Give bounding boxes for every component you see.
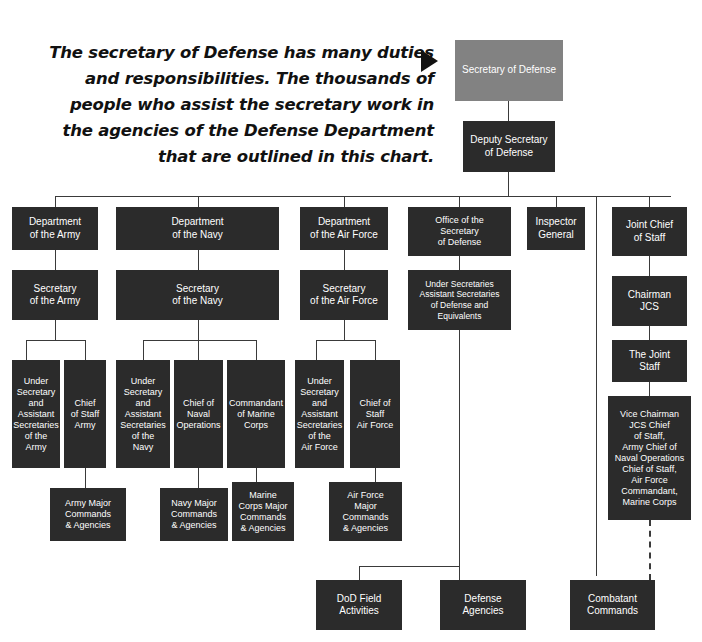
- box-secretary-of-the-navy[interactable]: Secretary of the Navy: [116, 270, 279, 320]
- connector-af-chief-drop: [375, 340, 376, 360]
- connector-af-split-bar: [316, 340, 375, 341]
- connector-sec-navy-down: [198, 320, 199, 340]
- connector-osd-bottom-bar: [359, 566, 460, 567]
- box-deputy-secretary-of-defense[interactable]: Deputy Secretary of Defense: [463, 121, 555, 172]
- box-chief-of-staff-army[interactable]: Chief of Staff Army: [64, 360, 106, 468]
- connector-navy-cmc-drop: [256, 340, 257, 360]
- connector-bus-to-navy: [198, 196, 199, 207]
- box-office-of-the-secretary-of-defense[interactable]: Office of the Secretary of Defense: [408, 207, 511, 256]
- box-air-force-major-commands[interactable]: Air Force Major Commands & Agencies: [329, 482, 402, 541]
- box-chief-of-naval-operations[interactable]: Chief of Naval Operations: [174, 360, 223, 468]
- box-secretary-of-the-army[interactable]: Secretary of the Army: [12, 270, 98, 320]
- box-joint-chief-of-staff[interactable]: Joint Chief of Staff: [612, 207, 687, 256]
- box-dod-field-activities[interactable]: DoD Field Activities: [316, 580, 402, 630]
- connector-bus-to-army: [55, 196, 56, 207]
- triangle-right-icon: [421, 50, 438, 72]
- connector-bar-to-dod-field: [359, 566, 360, 580]
- connector-sec-army-down: [55, 320, 56, 340]
- box-inspector-general[interactable]: Inspector General: [527, 207, 585, 250]
- connector-bus-to-combatant: [596, 196, 597, 576]
- dod-org-chart: The secretary of Defense has many duties…: [0, 0, 702, 642]
- box-secretary-of-the-air-force[interactable]: Secretary of the Air Force: [300, 270, 388, 320]
- connector-bus-to-ig: [556, 196, 557, 207]
- connector-navy-undersec-drop: [143, 340, 144, 360]
- box-army-major-commands[interactable]: Army Major Commands & Agencies: [50, 488, 126, 541]
- connector-joint-staff-to-vice: [649, 382, 650, 396]
- connector-main-bus: [55, 196, 671, 197]
- box-defense-agencies[interactable]: Defense Agencies: [440, 580, 526, 630]
- connector-sec-af-down: [344, 320, 345, 340]
- connector-deputy-down: [508, 172, 509, 196]
- box-secretary-of-defense[interactable]: Secretary of Defense: [455, 40, 563, 101]
- box-department-of-the-air-force[interactable]: Department of the Air Force: [300, 207, 388, 250]
- box-under-secretary-navy[interactable]: Under Secretary and Assistant Secretarie…: [116, 360, 170, 468]
- connector-army-undersec-drop: [26, 340, 27, 360]
- box-under-secretary-army[interactable]: Under Secretary and Assistant Secretarie…: [12, 360, 60, 468]
- connector-vice-to-combatant-dashed: [649, 520, 651, 580]
- connector-bar-to-defense-agencies: [459, 566, 460, 580]
- box-combatant-commands[interactable]: Combatant Commands: [570, 580, 655, 630]
- connector-navy-split-bar: [143, 340, 256, 341]
- connector-army-chief-drop: [85, 340, 86, 360]
- box-chairman-jcs[interactable]: Chairman JCS: [612, 276, 687, 326]
- box-department-of-the-navy[interactable]: Department of the Navy: [116, 207, 279, 250]
- connector-navy-cno-drop: [198, 340, 199, 360]
- box-under-secretaries-assistant-secretaries[interactable]: Under Secretaries Assistant Secretaries …: [408, 270, 511, 330]
- box-commandant-of-marine-corps[interactable]: Commandant of Marine Corps: [227, 360, 285, 468]
- connector-osd-to-undersecs: [459, 256, 460, 270]
- chart-caption: The secretary of Defense has many duties…: [44, 40, 434, 170]
- connector-chairman-to-joint-staff: [649, 326, 650, 340]
- connector-dept-af-to-sec-af: [344, 250, 345, 270]
- connector-cno-to-cmds: [198, 468, 199, 488]
- box-vice-chairman-jcs[interactable]: Vice Chairman JCS Chief of Staff, Army C…: [608, 396, 691, 520]
- connector-bus-to-airforce: [344, 196, 345, 207]
- connector-army-chief-to-cmds: [85, 468, 86, 488]
- connector-dept-navy-to-sec-navy: [198, 250, 199, 270]
- connector-af-undersec-drop: [316, 340, 317, 360]
- box-chief-of-staff-air-force[interactable]: Chief of Staff Air Force: [350, 360, 400, 468]
- box-under-secretary-air-force[interactable]: Under Secretary and Assistant Secretarie…: [295, 360, 344, 468]
- box-the-joint-staff[interactable]: The Joint Staff: [612, 340, 687, 382]
- box-department-of-the-army[interactable]: Department of the Army: [12, 207, 98, 250]
- connector-secdef-to-deputy: [508, 101, 509, 121]
- box-navy-major-commands[interactable]: Navy Major Commands & Agencies: [160, 488, 228, 541]
- connector-army-split-bar: [26, 340, 85, 341]
- box-marine-corps-major-commands[interactable]: Marine Corps Major Commands & Agencies: [232, 482, 294, 541]
- connector-bus-to-osd: [459, 196, 460, 207]
- connector-jcs-to-chairman: [649, 256, 650, 276]
- connector-dept-army-to-sec-army: [55, 250, 56, 270]
- connector-bus-to-jcs: [649, 196, 650, 207]
- connector-undersecs-down: [459, 330, 460, 566]
